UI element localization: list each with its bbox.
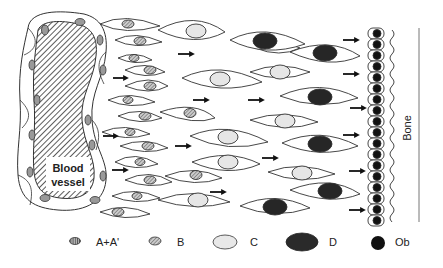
legend-item-ob: Ob <box>371 236 410 250</box>
legend-label-c: C <box>250 236 258 248</box>
legend-item-c: C <box>213 235 258 249</box>
legend: A+A' B C D Ob <box>70 233 410 251</box>
legend-label-a: A+A' <box>96 236 119 248</box>
legend-label-d: D <box>329 236 337 248</box>
bone-label: Bone <box>401 115 413 141</box>
nucleus-b-icon <box>149 237 161 245</box>
bone: Bone <box>390 28 419 222</box>
vessel-label-line2: vessel <box>51 176 85 188</box>
diagram-canvas: Blood vessel <box>0 0 443 268</box>
nucleus-a-icon <box>70 238 81 245</box>
legend-item-a: A+A' <box>70 236 120 248</box>
legend-item-b: B <box>149 236 184 248</box>
vessel-label-line1: Blood <box>52 162 83 174</box>
nucleus-d-icon <box>286 233 318 251</box>
legend-label-ob: Ob <box>395 236 410 248</box>
cells-b-column <box>100 18 172 217</box>
blood-vessel: Blood vessel <box>18 12 107 210</box>
nucleus-ob-icon <box>371 236 385 250</box>
legend-item-d: D <box>286 233 337 251</box>
legend-label-b: B <box>177 236 184 248</box>
osteoblast-column <box>368 28 384 226</box>
nucleus-c-icon <box>213 235 237 249</box>
